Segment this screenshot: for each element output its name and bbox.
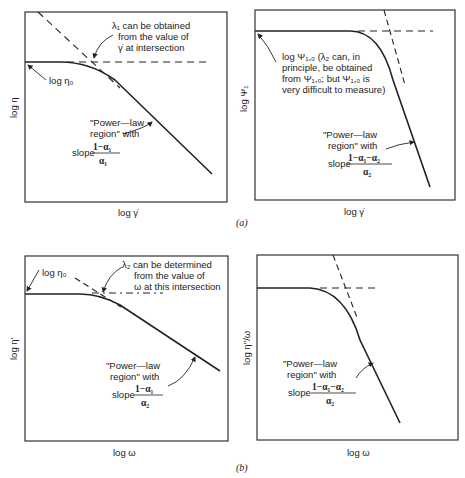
intersect-note-2: from the value of <box>118 31 189 42</box>
slope-word: slope <box>112 389 135 400</box>
panel-a-right: log Ψ₁,₀ (λ₂ can, in principle, be obtai… <box>236 10 455 229</box>
panel-a-left: λ₁ can be obtained from the value of γ̇ … <box>8 12 227 218</box>
plateau-arrow <box>258 34 276 62</box>
power-law-label-2: region" with <box>90 128 139 139</box>
power-law-label-2: region" with <box>110 371 159 382</box>
slope-word: slope <box>288 387 311 398</box>
y-axis-label: log Ψ₁ <box>238 86 249 112</box>
power-arrow <box>168 357 195 386</box>
power-law-asymptote <box>384 10 405 85</box>
x-axis-label: log ω <box>347 447 370 458</box>
plateau-note-4: very difficult to measure) <box>282 84 385 95</box>
intersect-note-3: γ̇ at intersection <box>118 42 185 53</box>
y-axis-label: log η''/ω <box>241 330 252 365</box>
power-law-label-1: "Power—law <box>106 360 160 371</box>
plateau-note-1: log Ψ₁,₀ (λ₂ can, in <box>282 51 360 62</box>
caption-b: (b) <box>236 462 248 474</box>
slope-denominator: α₂ <box>141 398 149 408</box>
power-law-label-1: "Power—law <box>283 358 337 369</box>
plot-frame <box>257 255 458 440</box>
slope-word: slope <box>72 147 95 158</box>
caption-a: (a) <box>236 217 248 229</box>
power-law-label-2: region" with <box>287 369 336 380</box>
x-axis-label: log γ̇ <box>344 206 365 217</box>
slope-numerator: 1−α₁−α₂ <box>348 153 380 163</box>
power-law-label-1: "Power—law <box>90 117 144 128</box>
power-law-label-2: region" with <box>328 140 377 151</box>
y-axis-label: log η' <box>8 337 19 360</box>
intersect-arrow <box>103 267 122 292</box>
slope-numerator: 1−α₁−α₂ <box>312 382 344 392</box>
plateau-label: log η₀ <box>49 75 74 86</box>
intersect-arrow <box>94 35 113 58</box>
plateau-note-3: from Ψ₁,₀; but Ψ₁,₀ is <box>282 73 370 84</box>
slope-numerator: 1−α₁ <box>135 384 153 394</box>
power-arrow <box>386 142 414 149</box>
x-axis-label: log ω <box>113 447 136 458</box>
x-axis-label: log γ̇ <box>118 207 139 218</box>
slope-numerator: 1−α₁ <box>93 142 111 152</box>
intersect-note-1: λ₁ can be obtained <box>112 20 190 31</box>
slope-denominator: α₂ <box>326 396 334 406</box>
slope-denominator: α₂ <box>363 167 371 177</box>
intersect-note-1: λ₂ can be determined <box>122 259 212 270</box>
intersect-note-2: from the value of <box>134 270 205 281</box>
rheology-figure: λ₁ can be obtained from the value of γ̇ … <box>0 0 465 478</box>
panel-b-left: λ₂ can be determined from the value of ω… <box>8 256 228 458</box>
plateau-note-2: principle, be obtained <box>282 62 372 73</box>
intersect-note-3: ω at this intersection <box>134 281 221 292</box>
slope-denominator: α₁ <box>99 156 107 166</box>
y-axis-label: log η <box>8 97 19 118</box>
plateau-label: log η₀ <box>42 267 67 278</box>
panel-b-right: "Power—law region" with slope 1−α₁−α₂ α₂… <box>236 255 458 474</box>
power-law-label-1: "Power—law <box>323 129 377 140</box>
power-arrow <box>356 363 373 378</box>
plateau-arrow <box>27 270 39 291</box>
plateau-arrow <box>28 65 46 80</box>
